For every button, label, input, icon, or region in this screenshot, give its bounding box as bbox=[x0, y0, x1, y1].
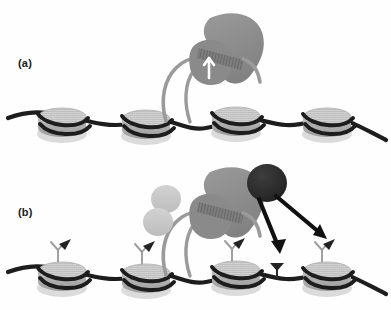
figure-canvas: (a) (b) bbox=[0, 0, 391, 310]
deposition-arrow-left-head bbox=[271, 239, 286, 254]
panel-label-b: (b) bbox=[18, 206, 33, 218]
effector-enzyme-blob bbox=[247, 164, 287, 202]
panel-label-a: (a) bbox=[18, 57, 32, 69]
histone-mark-b3 bbox=[225, 238, 245, 263]
histone-mark-b1 bbox=[51, 239, 71, 264]
histone-mark-b4 bbox=[315, 239, 335, 264]
deposition-arrow-left-shaft bbox=[259, 199, 278, 246]
panel-b-group bbox=[8, 164, 386, 299]
free-mark-flag bbox=[270, 263, 284, 271]
diagram-svg bbox=[0, 0, 391, 310]
rna-polymerase-a bbox=[189, 13, 264, 85]
panel-a-group bbox=[8, 13, 386, 145]
accessory-factor-complex bbox=[143, 185, 181, 236]
extruded-dna-loop-b-return bbox=[186, 224, 194, 276]
extruded-dna-loop-a-return bbox=[186, 70, 194, 122]
histone-mark-b2 bbox=[135, 241, 155, 266]
deposition-arrow-right-shaft bbox=[276, 196, 320, 233]
factor-lobe-lower bbox=[143, 208, 173, 236]
